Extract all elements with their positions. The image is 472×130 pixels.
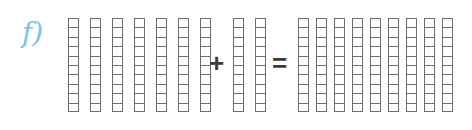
unit-cell bbox=[156, 56, 167, 65]
unit-cell bbox=[200, 93, 211, 102]
unit-cell bbox=[156, 84, 167, 93]
unit-cell bbox=[298, 74, 309, 83]
unit-cell bbox=[298, 27, 309, 36]
unit-cell bbox=[178, 93, 189, 102]
unit-cell bbox=[255, 65, 266, 74]
unit-cell bbox=[370, 84, 381, 93]
unit-cell bbox=[316, 65, 327, 74]
unit-cell bbox=[370, 74, 381, 83]
unit-cell bbox=[200, 103, 211, 112]
unit-cell bbox=[298, 46, 309, 55]
unit-cell bbox=[334, 37, 345, 46]
unit-cell bbox=[298, 65, 309, 74]
unit-cell bbox=[442, 84, 453, 93]
unit-cell bbox=[370, 103, 381, 112]
unit-cell bbox=[406, 103, 417, 112]
unit-cell bbox=[424, 46, 435, 55]
unit-cell bbox=[112, 84, 123, 93]
unit-cell bbox=[112, 18, 123, 27]
unit-cell bbox=[233, 37, 244, 46]
plus-operator: + bbox=[209, 50, 224, 76]
unit-cell bbox=[406, 27, 417, 36]
unit-cell bbox=[134, 74, 145, 83]
unit-cell bbox=[112, 46, 123, 55]
unit-cell bbox=[388, 103, 399, 112]
unit-cell bbox=[68, 18, 79, 27]
unit-cell bbox=[388, 65, 399, 74]
unit-cell bbox=[442, 65, 453, 74]
unit-cell bbox=[424, 74, 435, 83]
unit-cell bbox=[442, 93, 453, 102]
unit-cell bbox=[442, 56, 453, 65]
unit-cell bbox=[90, 103, 101, 112]
unit-cell bbox=[156, 37, 167, 46]
unit-cell bbox=[406, 84, 417, 93]
unit-cell bbox=[424, 37, 435, 46]
unit-cell bbox=[200, 27, 211, 36]
unit-cell bbox=[298, 18, 309, 27]
unit-cell bbox=[90, 84, 101, 93]
unit-cell bbox=[200, 18, 211, 27]
rod-group-sum bbox=[298, 18, 460, 112]
unit-cell bbox=[388, 27, 399, 36]
unit-cell bbox=[233, 27, 244, 36]
unit-cell bbox=[370, 65, 381, 74]
unit-cell bbox=[255, 56, 266, 65]
tens-rod bbox=[406, 18, 417, 112]
unit-cell bbox=[112, 74, 123, 83]
unit-cell bbox=[255, 103, 266, 112]
unit-cell bbox=[406, 46, 417, 55]
unit-cell bbox=[424, 93, 435, 102]
unit-cell bbox=[352, 56, 363, 65]
unit-cell bbox=[316, 37, 327, 46]
unit-cell bbox=[156, 65, 167, 74]
unit-cell bbox=[68, 84, 79, 93]
unit-cell bbox=[112, 103, 123, 112]
unit-cell bbox=[334, 27, 345, 36]
unit-cell bbox=[316, 18, 327, 27]
unit-cell bbox=[334, 46, 345, 55]
tens-rod bbox=[442, 18, 453, 112]
unit-cell bbox=[112, 56, 123, 65]
unit-cell bbox=[406, 74, 417, 83]
unit-cell bbox=[370, 56, 381, 65]
unit-cell bbox=[442, 103, 453, 112]
tens-rod bbox=[316, 18, 327, 112]
unit-cell bbox=[334, 56, 345, 65]
unit-cell bbox=[68, 103, 79, 112]
unit-cell bbox=[352, 65, 363, 74]
unit-cell bbox=[298, 37, 309, 46]
unit-cell bbox=[112, 37, 123, 46]
unit-cell bbox=[233, 65, 244, 74]
unit-cell bbox=[233, 103, 244, 112]
unit-cell bbox=[134, 56, 145, 65]
unit-cell bbox=[156, 46, 167, 55]
unit-cell bbox=[255, 37, 266, 46]
tens-rod bbox=[298, 18, 309, 112]
unit-cell bbox=[406, 18, 417, 27]
unit-cell bbox=[178, 65, 189, 74]
unit-cell bbox=[156, 27, 167, 36]
unit-cell bbox=[68, 56, 79, 65]
unit-cell bbox=[233, 46, 244, 55]
equals-operator: = bbox=[272, 50, 287, 76]
tens-rod bbox=[255, 18, 266, 112]
unit-cell bbox=[442, 74, 453, 83]
unit-cell bbox=[316, 27, 327, 36]
tens-rod bbox=[370, 18, 381, 112]
unit-cell bbox=[156, 93, 167, 102]
unit-cell bbox=[442, 37, 453, 46]
unit-cell bbox=[424, 84, 435, 93]
unit-cell bbox=[424, 56, 435, 65]
unit-cell bbox=[316, 103, 327, 112]
unit-cell bbox=[298, 103, 309, 112]
unit-cell bbox=[134, 46, 145, 55]
unit-cell bbox=[178, 84, 189, 93]
unit-cell bbox=[134, 103, 145, 112]
unit-cell bbox=[156, 18, 167, 27]
unit-cell bbox=[388, 84, 399, 93]
tens-rod bbox=[233, 18, 244, 112]
unit-cell bbox=[90, 93, 101, 102]
unit-cell bbox=[178, 74, 189, 83]
unit-cell bbox=[352, 37, 363, 46]
